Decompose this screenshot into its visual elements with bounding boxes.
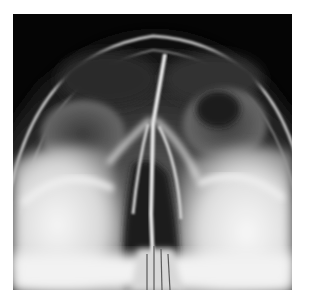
xray-image	[13, 14, 292, 290]
xray-drawing	[13, 14, 292, 290]
orbit-right-dark	[196, 91, 240, 127]
frontal-region-left	[58, 51, 158, 107]
